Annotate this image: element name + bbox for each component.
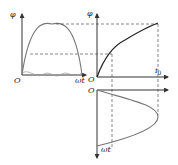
omega-t-label-bottom: ωt [101,145,112,154]
origin-label-bottom: O [88,86,95,95]
omega-t-label-left: ωt [75,76,86,85]
phi-label-left: φ [10,10,16,19]
current-vs-time-panel: O ωt [88,86,168,158]
flux-vs-current-panel: φ O i0 [87,9,168,84]
current-curve [97,90,158,146]
origin-label-mid: O [88,75,95,84]
magnetization-curve [97,23,158,77]
diagram-canvas: φ O ωt φ O i0 O ωt [0,0,178,165]
flux-vs-time-panel: φ O ωt [10,10,86,85]
origin-label-left: O [14,76,21,85]
flux-sine-curve [22,23,82,75]
phi-label-mid: φ [87,9,93,18]
